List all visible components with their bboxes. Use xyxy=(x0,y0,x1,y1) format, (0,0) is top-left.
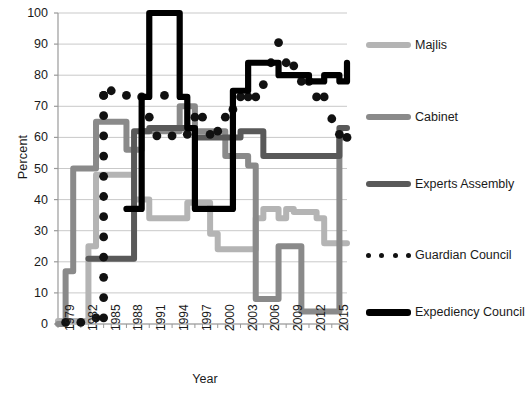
x-tick-label: 2009 xyxy=(291,304,305,331)
legend-label: Expediency Council xyxy=(415,305,525,319)
legend-label: Guardian Council xyxy=(415,248,512,262)
data-point xyxy=(152,131,161,140)
data-point xyxy=(259,80,268,89)
data-point xyxy=(206,130,215,139)
y-tick-label: 70 xyxy=(12,100,48,112)
y-tick-label: 90 xyxy=(12,38,48,50)
x-tick-label: 1991 xyxy=(154,304,168,331)
chart-legend: MajlisCabinetExperts AssemblyGuardian Co… xyxy=(366,0,518,360)
legend-label: Experts Assembly xyxy=(415,177,514,191)
x-tick-label: 2015 xyxy=(337,304,351,331)
legend-dot-icon xyxy=(379,253,384,258)
data-point xyxy=(99,273,108,282)
x-tick-label: 2012 xyxy=(314,304,328,331)
y-tick-label: 20 xyxy=(12,256,48,268)
legend-swatch-icon xyxy=(366,114,411,120)
x-tick-label: 2000 xyxy=(223,304,237,331)
y-tick-label: 10 xyxy=(12,287,48,299)
x-tick-label: 1985 xyxy=(109,304,123,331)
data-point xyxy=(282,58,291,67)
legend-item-majlis[interactable]: Majlis xyxy=(366,38,447,52)
data-point xyxy=(320,93,329,102)
x-tick-label: 1982 xyxy=(86,304,100,331)
x-tick-label: 1988 xyxy=(131,304,145,331)
legend-item-expediency-council[interactable]: Expediency Council xyxy=(366,305,525,319)
data-point xyxy=(297,77,306,86)
data-point xyxy=(145,113,154,122)
legend-swatch-icon xyxy=(366,42,411,48)
x-tick-label: 2003 xyxy=(246,304,260,331)
data-point xyxy=(183,130,192,139)
data-point xyxy=(99,172,108,181)
data-point xyxy=(99,111,108,120)
data-point xyxy=(251,93,260,102)
x-tick-label: 1994 xyxy=(177,304,191,331)
data-point xyxy=(107,86,116,95)
y-tick-label: 0 xyxy=(12,318,48,330)
data-point xyxy=(99,313,108,322)
y-tick-label: 80 xyxy=(12,69,48,81)
legend-item-cabinet[interactable]: Cabinet xyxy=(366,110,458,124)
legend-dot-icon xyxy=(366,253,371,258)
legend-swatch-icon xyxy=(366,181,411,187)
data-point xyxy=(244,93,253,102)
data-point xyxy=(289,61,298,70)
data-point xyxy=(99,131,108,140)
y-axis-title: Percent xyxy=(16,112,30,202)
x-tick-label: 2006 xyxy=(268,304,282,331)
data-point xyxy=(190,113,199,122)
y-tick-label: 50 xyxy=(12,163,48,175)
data-point xyxy=(236,93,245,102)
legend-label: Cabinet xyxy=(415,110,458,124)
data-point xyxy=(274,38,283,47)
x-tick-label: 1979 xyxy=(63,304,77,331)
data-point xyxy=(99,212,108,221)
data-point xyxy=(168,131,177,140)
legend-item-experts-assembly[interactable]: Experts Assembly xyxy=(366,177,514,191)
x-axis-title: Year xyxy=(150,372,260,386)
y-tick-label: 100 xyxy=(12,7,48,19)
legend-swatch-icon xyxy=(366,309,411,316)
data-point xyxy=(99,192,108,201)
data-point xyxy=(198,113,207,122)
data-point xyxy=(76,318,85,327)
legend-item-guardian-council[interactable]: Guardian Council xyxy=(366,248,512,262)
data-point xyxy=(335,130,344,139)
data-point xyxy=(99,91,108,100)
data-point xyxy=(99,233,108,242)
legend-dot-icon xyxy=(406,253,411,258)
x-tick-label: 1997 xyxy=(200,304,214,331)
data-point xyxy=(160,91,169,100)
data-point xyxy=(99,293,108,302)
data-point xyxy=(122,91,131,100)
data-point xyxy=(213,127,222,136)
data-point xyxy=(327,114,336,123)
data-point xyxy=(99,152,108,161)
y-tick-label: 30 xyxy=(12,225,48,237)
data-point xyxy=(312,93,321,102)
data-point xyxy=(343,133,352,142)
legend-dot-icon xyxy=(393,253,398,258)
data-point xyxy=(221,113,230,122)
y-tick-label: 40 xyxy=(12,194,48,206)
legend-swatch-icon xyxy=(366,252,411,259)
y-tick-label: 60 xyxy=(12,131,48,143)
legend-label: Majlis xyxy=(415,38,447,52)
data-point xyxy=(99,253,108,262)
